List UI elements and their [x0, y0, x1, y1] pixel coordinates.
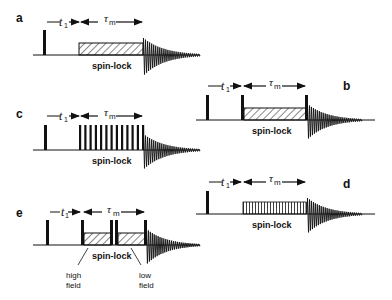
panel-label-c: c	[16, 107, 23, 121]
panel-label-b: b	[343, 79, 350, 93]
spin-lock-block	[79, 43, 143, 55]
svg-text:1: 1	[226, 86, 230, 93]
panel-label-a: a	[16, 11, 23, 25]
svg-text:field: field	[139, 281, 154, 290]
svg-text:m: m	[109, 18, 116, 27]
pulse-train	[79, 125, 144, 150]
svg-text:m: m	[113, 209, 120, 218]
spin-lock-high-field	[84, 233, 111, 245]
fid-signal	[307, 198, 362, 232]
svg-text:1: 1	[65, 212, 69, 219]
fid-signal	[143, 38, 200, 75]
spin-lock-label: spin-lock	[252, 126, 293, 136]
panel-label-e: e	[16, 206, 23, 220]
svg-text:t: t	[221, 79, 225, 93]
low-field-label: low	[139, 271, 151, 280]
svg-text:t: t	[221, 175, 225, 189]
fid-signal	[307, 104, 362, 138]
svg-text:m: m	[274, 82, 281, 91]
panel-a: a t 1 τ m spin-lock	[16, 11, 200, 75]
pulse-train	[243, 202, 307, 214]
svg-text:t: t	[59, 15, 63, 29]
svg-text:m: m	[274, 178, 281, 187]
spin-lock-label: spin-lock	[92, 251, 133, 261]
spin-lock-low-field	[118, 233, 145, 245]
svg-text:1: 1	[64, 22, 68, 29]
svg-text:1: 1	[226, 182, 230, 189]
pulse-sequence-figure: a t 1 τ m spin-lock b t 1 τ m spin-lock	[0, 0, 392, 300]
panel-e: e t 1 τ m spin-lock high field low field	[16, 203, 200, 290]
panel-label-d: d	[343, 177, 350, 191]
spin-lock-label: spin-lock	[92, 156, 133, 166]
svg-text:τ: τ	[107, 203, 112, 215]
svg-text:m: m	[109, 112, 116, 121]
fid-signal	[146, 229, 200, 263]
pulse	[43, 30, 46, 55]
panel-d: d t 1 τ m spin-lock	[196, 172, 375, 232]
spin-lock-block	[244, 108, 306, 120]
svg-text:field: field	[66, 281, 81, 290]
panel-c: c t 1 τ m spin-lock	[16, 106, 200, 168]
high-field-label: high	[66, 271, 81, 280]
fid-signal	[143, 134, 200, 168]
svg-text:1: 1	[64, 116, 68, 123]
panel-b: b t 1 τ m spin-lock	[196, 76, 375, 138]
svg-text:t: t	[59, 109, 63, 123]
spin-lock-label: spin-lock	[252, 220, 293, 230]
spin-lock-label: spin-lock	[92, 61, 133, 71]
